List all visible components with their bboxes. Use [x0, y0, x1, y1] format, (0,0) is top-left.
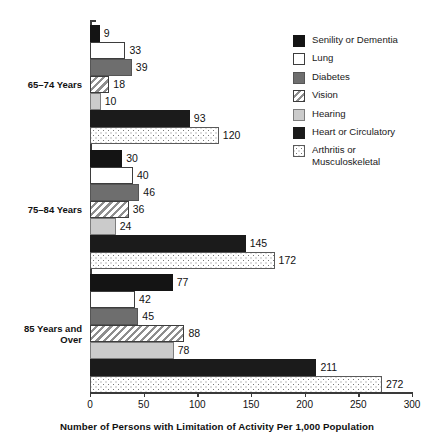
legend-swatch-icon	[293, 145, 305, 157]
bar	[90, 308, 138, 325]
category-label: 65–74 Years	[0, 79, 82, 90]
x-axis-tick	[305, 392, 306, 397]
bar-value-label: 145	[246, 235, 268, 252]
legend-item[interactable]: Heart or Circulatory	[293, 126, 433, 144]
x-axis-tick-label: 50	[138, 399, 149, 410]
bar-value-label: 172	[275, 252, 297, 269]
bar-value-label: 18	[109, 76, 125, 93]
bar	[90, 184, 139, 201]
bar-group: 3040463624145172	[90, 150, 412, 269]
bar-value-label: 10	[101, 93, 117, 110]
legend-swatch-icon	[293, 35, 305, 47]
bar	[90, 376, 382, 393]
bar	[90, 42, 125, 59]
bar-value-label: 33	[125, 42, 141, 59]
bar-row: 36	[90, 201, 412, 218]
x-axis-tick-label: 100	[189, 399, 206, 410]
x-axis-tick	[251, 392, 252, 397]
x-axis-tick-label: 0	[87, 399, 93, 410]
category-label: 75–84 Years	[0, 204, 82, 215]
legend-label: Arthritis or Musculoskeletal	[312, 144, 380, 167]
bar-row: 24	[90, 218, 412, 235]
bar	[90, 150, 122, 167]
legend-item[interactable]: Senility or Dementia	[293, 34, 433, 52]
bar	[90, 127, 219, 144]
legend-swatch-icon	[293, 90, 305, 102]
bar-row: 40	[90, 167, 412, 184]
legend-item[interactable]: Vision	[293, 89, 433, 107]
bar-value-label: 9	[100, 25, 110, 42]
bar	[90, 59, 132, 76]
legend-label: Diabetes	[312, 71, 350, 82]
legend-item[interactable]: Hearing	[293, 108, 433, 126]
bar-value-label: 211	[316, 359, 337, 376]
bar-value-label: 93	[190, 110, 206, 127]
legend-item[interactable]: Diabetes	[293, 71, 433, 89]
legend-item[interactable]: Lung	[293, 52, 433, 70]
legend: Senility or DementiaLungDiabetesVisionHe…	[293, 34, 433, 163]
bar-value-label: 39	[132, 59, 148, 76]
bar-row: 42	[90, 291, 412, 308]
bar-row: 272	[90, 376, 412, 393]
bar	[90, 167, 133, 184]
bar-value-label: 30	[122, 150, 138, 167]
bar-value-label: 24	[116, 218, 132, 235]
bar	[90, 218, 116, 235]
legend-label: Vision	[312, 89, 338, 100]
legend-label: Heart or Circulatory	[312, 126, 395, 137]
bar-value-label: 77	[173, 274, 189, 291]
bar-row: 77	[90, 274, 412, 291]
bar-row: 88	[90, 325, 412, 342]
bar-row: 211	[90, 359, 412, 376]
bar-value-label: 45	[138, 308, 154, 325]
bar-value-label: 46	[139, 184, 155, 201]
x-axis-tick-label: 250	[350, 399, 367, 410]
category-label: 85 Years andOver	[0, 323, 82, 345]
x-axis-tick-label: 300	[404, 399, 421, 410]
x-axis-tick-label: 150	[243, 399, 260, 410]
bar	[90, 76, 109, 93]
bar-value-label: 120	[219, 127, 241, 144]
legend-label: Senility or Dementia	[312, 34, 398, 45]
x-axis-tick	[358, 392, 359, 397]
bar-value-label: 42	[135, 291, 151, 308]
bar	[90, 201, 129, 218]
legend-swatch-icon	[293, 127, 305, 139]
bar-value-label: 272	[382, 376, 404, 393]
bar-group: 7742458878211272	[90, 274, 412, 393]
x-axis-tick-label: 200	[296, 399, 313, 410]
bar	[90, 235, 246, 252]
bar-value-label: 88	[184, 325, 200, 342]
x-axis-tick	[412, 392, 413, 397]
bar-chart: 9333918109312030404636241451727742458878…	[0, 0, 434, 446]
bar	[90, 93, 101, 110]
bar	[90, 342, 174, 359]
bar-row: 46	[90, 184, 412, 201]
bar	[90, 325, 184, 342]
x-axis-tick	[197, 392, 198, 397]
bar-value-label: 78	[174, 342, 190, 359]
bar-row: 172	[90, 252, 412, 269]
legend-swatch-icon	[293, 72, 305, 84]
bar-value-label: 40	[133, 167, 149, 184]
x-axis-tick	[144, 392, 145, 397]
legend-swatch-icon	[293, 53, 305, 65]
bar-row: 78	[90, 342, 412, 359]
bar-row: 145	[90, 235, 412, 252]
bar	[90, 110, 190, 127]
legend-swatch-icon	[293, 109, 305, 121]
bar	[90, 359, 316, 376]
bar	[90, 291, 135, 308]
bar	[90, 274, 173, 291]
bar-value-label: 36	[129, 201, 145, 218]
legend-label: Hearing	[312, 108, 346, 119]
bar	[90, 25, 100, 42]
bar-row: 45	[90, 308, 412, 325]
legend-item[interactable]: Arthritis or Musculoskeletal	[293, 144, 433, 162]
bar	[90, 252, 275, 269]
legend-label: Lung	[312, 52, 333, 63]
x-axis-tick	[90, 392, 91, 397]
x-axis-title: Number of Persons with Limitation of Act…	[0, 421, 434, 432]
